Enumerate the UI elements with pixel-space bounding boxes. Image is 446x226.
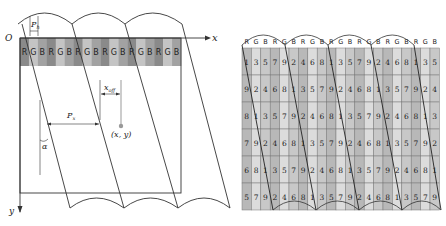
sample-point-label: (x, y) bbox=[111, 130, 131, 139]
view-number: 7 bbox=[376, 166, 381, 175]
header-cell: R bbox=[357, 38, 362, 46]
subpixel-label: R bbox=[22, 48, 28, 57]
view-number: 5 bbox=[244, 193, 249, 202]
view-number: 8 bbox=[244, 112, 249, 121]
geometry-svg: RGBRGBRGBRGBRGBRGB x y O Ph xoff (x, y) bbox=[0, 0, 232, 226]
header-cell: G bbox=[338, 38, 343, 46]
view-number: 8 bbox=[367, 85, 372, 94]
view-number: 7 bbox=[244, 139, 249, 148]
view-number: 9 bbox=[263, 193, 268, 202]
view-number: 7 bbox=[329, 139, 334, 148]
view-number: 2 bbox=[385, 112, 390, 121]
subpixel-label: G bbox=[57, 48, 63, 57]
view-number: 6 bbox=[404, 112, 409, 121]
view-number: 8 bbox=[254, 166, 259, 175]
view-number: 8 bbox=[385, 193, 390, 202]
view-number: 6 bbox=[376, 193, 381, 202]
view-number: 2 bbox=[432, 139, 437, 148]
view-number: 9 bbox=[254, 139, 259, 148]
view-number: 8 bbox=[338, 166, 343, 175]
view-number: 5 bbox=[367, 166, 372, 175]
view-number: 2 bbox=[310, 166, 315, 175]
view-number: 5 bbox=[357, 112, 362, 121]
x-axis-arrow bbox=[205, 36, 211, 41]
view-number: 3 bbox=[310, 139, 315, 148]
view-number-grid: 1357924681357924681359246813579246813579… bbox=[242, 48, 439, 210]
view-number: 9 bbox=[291, 112, 296, 121]
view-number: 7 bbox=[273, 58, 278, 67]
view-number: 2 bbox=[338, 85, 343, 94]
view-number: 4 bbox=[320, 166, 325, 175]
sample-point-marker bbox=[119, 124, 123, 128]
view-number: 5 bbox=[348, 58, 353, 67]
subpixel-label: B bbox=[66, 48, 72, 57]
view-number: 2 bbox=[357, 193, 362, 202]
subpixel-label: G bbox=[138, 48, 144, 57]
view-number: 6 bbox=[414, 166, 419, 175]
header-cell: G bbox=[423, 38, 428, 46]
view-number: 4 bbox=[357, 139, 362, 148]
xoff-arrow-right bbox=[116, 93, 120, 96]
view-number: 3 bbox=[423, 58, 428, 67]
view-number: 4 bbox=[301, 58, 306, 67]
view-number: 9 bbox=[414, 85, 419, 94]
lens-arcs-bottom bbox=[70, 198, 230, 208]
header-cell: G bbox=[310, 38, 315, 46]
subpixel-label: R bbox=[102, 48, 108, 57]
view-number: 7 bbox=[320, 85, 325, 94]
view-number: 5 bbox=[329, 193, 334, 202]
view-number: 7 bbox=[414, 139, 419, 148]
view-number: 9 bbox=[432, 193, 437, 202]
view-number: 6 bbox=[357, 85, 362, 94]
view-number: 7 bbox=[404, 85, 409, 94]
view-number: 8 bbox=[376, 139, 381, 148]
view-number: 9 bbox=[348, 193, 353, 202]
view-number: 8 bbox=[404, 58, 409, 67]
px-arrow-right bbox=[95, 123, 99, 126]
rgb-header-row: RGBRGBRGBRGBRGBRGBRGB bbox=[244, 38, 437, 46]
header-cell: R bbox=[301, 38, 306, 46]
x-axis-label: x bbox=[212, 32, 218, 43]
view-number: 4 bbox=[432, 85, 437, 94]
view-number: 3 bbox=[254, 58, 259, 67]
view-number: 2 bbox=[273, 193, 278, 202]
view-number: 5 bbox=[432, 58, 437, 67]
rgb-subpixel-strip: RGBRGBRGBRGBRGBRGB bbox=[20, 38, 181, 66]
subpixel-label: R bbox=[49, 48, 55, 57]
alpha-label: α bbox=[42, 142, 48, 151]
view-number: 5 bbox=[414, 193, 419, 202]
header-cell: B bbox=[432, 38, 436, 46]
view-number: 7 bbox=[282, 112, 287, 121]
view-number: 9 bbox=[385, 166, 390, 175]
header-cell: B bbox=[263, 38, 267, 46]
view-number: 3 bbox=[385, 85, 390, 94]
view-number: 2 bbox=[254, 85, 259, 94]
subpixel-label: G bbox=[30, 48, 36, 57]
xoff-label: xoff bbox=[104, 83, 117, 94]
view-number: 4 bbox=[404, 166, 409, 175]
view-number: 6 bbox=[244, 166, 249, 175]
view-number: 5 bbox=[395, 85, 400, 94]
grid-svg: 1357924681357924681359246813579246813579… bbox=[236, 0, 446, 226]
view-number: 3 bbox=[395, 139, 400, 148]
view-number: 6 bbox=[395, 58, 400, 67]
header-cell: R bbox=[414, 38, 419, 46]
origin-label: O bbox=[5, 33, 13, 43]
view-number: 8 bbox=[320, 58, 325, 67]
view-number: 9 bbox=[338, 139, 343, 148]
view-number: 2 bbox=[376, 58, 381, 67]
view-number: 6 bbox=[273, 85, 278, 94]
view-number: 7 bbox=[423, 193, 428, 202]
view-number: 8 bbox=[329, 112, 334, 121]
view-number: 8 bbox=[282, 85, 287, 94]
view-number: 3 bbox=[263, 112, 268, 121]
y-axis-label: y bbox=[8, 206, 15, 216]
subpixel-label: B bbox=[147, 48, 153, 57]
view-number: 3 bbox=[320, 193, 325, 202]
subpixel-label: B bbox=[174, 48, 180, 57]
view-number: 4 bbox=[263, 85, 268, 94]
view-number: 5 bbox=[263, 58, 268, 67]
view-number: 2 bbox=[348, 139, 353, 148]
view-number: 3 bbox=[432, 112, 437, 121]
view-number: 8 bbox=[301, 193, 306, 202]
